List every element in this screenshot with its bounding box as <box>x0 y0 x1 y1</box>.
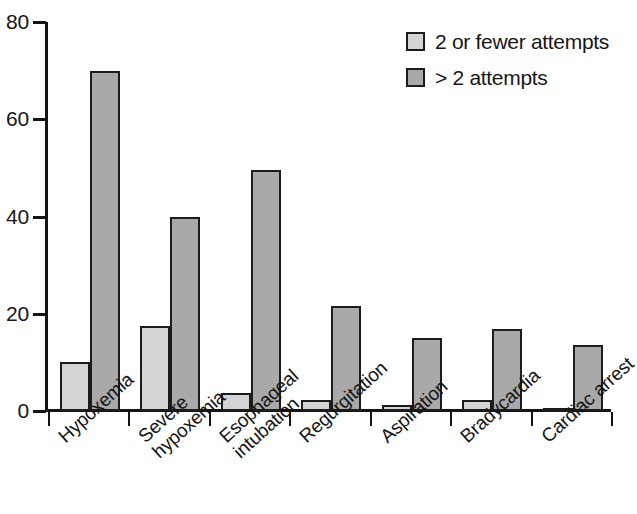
legend-label-series-a: 2 or fewer attempts <box>435 31 609 52</box>
legend-label-series-b: > 2 attempts <box>435 67 548 88</box>
legend-item-series-b: > 2 attempts <box>406 62 609 92</box>
legend-swatch-icon-series-b <box>406 68 425 87</box>
x-axis-tick <box>531 412 533 426</box>
bar <box>90 71 120 411</box>
y-axis-tick-label: 60 <box>0 108 29 129</box>
y-axis-tick <box>33 21 46 24</box>
y-axis-tick-label: 80 <box>0 11 29 32</box>
chart-legend: 2 or fewer attempts > 2 attempts <box>406 26 609 98</box>
legend-swatch-icon-series-a <box>406 32 425 51</box>
x-axis-tick <box>48 412 50 426</box>
y-axis-tick <box>33 313 46 316</box>
x-axis-tick <box>450 412 452 426</box>
y-axis-tick-label: 20 <box>0 303 29 324</box>
y-axis-tick-label: 40 <box>0 206 29 227</box>
y-axis-tick <box>33 216 46 219</box>
y-axis-tick <box>33 118 46 121</box>
y-axis-tick-label: 0 <box>0 400 29 421</box>
legend-item-series-a: 2 or fewer attempts <box>406 26 609 56</box>
x-axis-tick <box>370 412 372 426</box>
bar <box>140 326 170 411</box>
x-axis-tick <box>611 412 613 426</box>
x-axis-tick <box>128 412 130 426</box>
